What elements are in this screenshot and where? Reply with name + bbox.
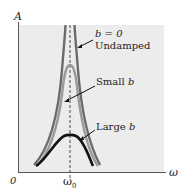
- large-b-text: Large: [96, 121, 129, 132]
- small-b-label: Small b: [96, 76, 134, 87]
- undamped-b-label: b = 0: [95, 28, 123, 39]
- small-b-var: b: [128, 76, 134, 87]
- large-b-var: b: [129, 121, 135, 132]
- resonance-diagram: [0, 0, 184, 193]
- small-b-text: Small: [96, 76, 128, 87]
- large-b-label: Large b: [96, 121, 135, 132]
- y-axis-label: A: [14, 10, 22, 23]
- resonance-frequency-label: ω0: [63, 175, 76, 190]
- undamped-label: Undamped: [95, 40, 150, 51]
- omega-subscript: 0: [72, 182, 76, 190]
- omega-symbol: ω: [63, 175, 72, 188]
- origin-label: 0: [10, 175, 16, 186]
- x-axis-label: ω: [169, 166, 178, 179]
